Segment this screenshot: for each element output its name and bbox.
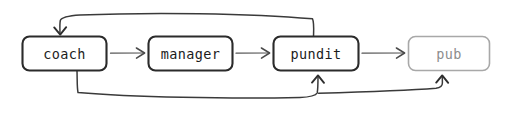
- edge-coach-to-manager: [111, 48, 145, 58]
- node-pundit[interactable]: pundit: [274, 37, 359, 71]
- node-manager[interactable]: manager: [149, 37, 233, 71]
- node-pundit-label: pundit: [290, 46, 341, 62]
- node-coach-label: coach: [43, 46, 86, 62]
- node-pub-label: pub: [436, 46, 462, 62]
- node-coach[interactable]: coach: [23, 37, 107, 71]
- diagram-canvas: coach manager pundit pub: [0, 0, 512, 119]
- flowchart-svg: coach manager pundit pub: [0, 0, 512, 119]
- edge-manager-to-pundit: [236, 48, 270, 58]
- edge-coach-to-pundit-path: [77, 71, 318, 98]
- node-pub[interactable]: pub: [409, 37, 490, 71]
- edge-coach-to-pundit: [77, 71, 324, 98]
- edge-pundit-to-pub: [362, 48, 405, 58]
- edge-pundit-to-coach: [54, 13, 314, 36]
- node-manager-label: manager: [161, 46, 221, 62]
- edge-coach-to-pub: [319, 75, 449, 93]
- edge-pundit-to-coach-path: [60, 13, 314, 36]
- edge-coach-to-pub-path: [319, 77, 443, 94]
